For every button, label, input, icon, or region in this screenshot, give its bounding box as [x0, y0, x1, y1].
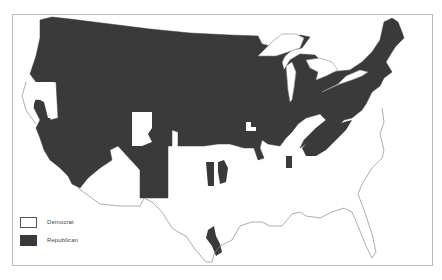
democrat-region-utah [132, 112, 152, 146]
republican-region-alabama [286, 156, 292, 168]
republican-region-mississippi [206, 162, 214, 186]
republican-region-louisiana [218, 160, 228, 184]
legend-label-democrat: Democrat [47, 219, 74, 225]
republican-region-east-texas [206, 226, 222, 256]
legend-label-republican: Republican [47, 237, 78, 243]
democrat-swatch-icon [20, 217, 37, 228]
republican-region-main [30, 17, 404, 198]
legend-item-democrat: Democrat [20, 213, 78, 231]
republican-swatch-icon [20, 235, 37, 246]
legend-item-republican: Republican [20, 231, 78, 249]
map-legend: Democrat Republican [20, 213, 78, 249]
